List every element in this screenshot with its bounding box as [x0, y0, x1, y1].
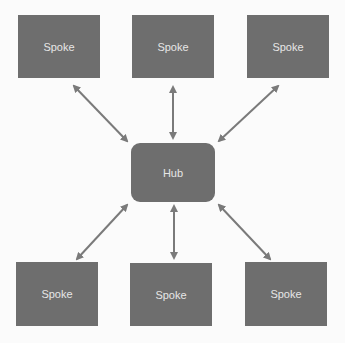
- spoke-label: Spoke: [41, 288, 72, 300]
- arrow-top-left: [74, 86, 127, 141]
- hub-node: Hub: [131, 143, 215, 202]
- spoke-top-center: Spoke: [132, 15, 214, 78]
- spoke-top-right: Spoke: [247, 15, 329, 78]
- spoke-label: Spoke: [272, 41, 303, 53]
- spoke-label: Spoke: [157, 41, 188, 53]
- arrow-top-right: [219, 86, 278, 141]
- spoke-bottom-center: Spoke: [130, 263, 212, 326]
- spoke-label: Spoke: [43, 41, 74, 53]
- spoke-label: Spoke: [155, 289, 186, 301]
- spoke-bottom-left: Spoke: [16, 262, 98, 326]
- spoke-bottom-right: Spoke: [245, 262, 327, 326]
- hub-spoke-diagram: Spoke Spoke Spoke Hub Spoke Spoke Spoke: [0, 0, 345, 343]
- arrow-bottom-left: [77, 205, 127, 259]
- spoke-top-left: Spoke: [18, 15, 100, 78]
- hub-label: Hub: [163, 167, 183, 179]
- arrow-bottom-right: [219, 205, 270, 259]
- spoke-label: Spoke: [270, 288, 301, 300]
